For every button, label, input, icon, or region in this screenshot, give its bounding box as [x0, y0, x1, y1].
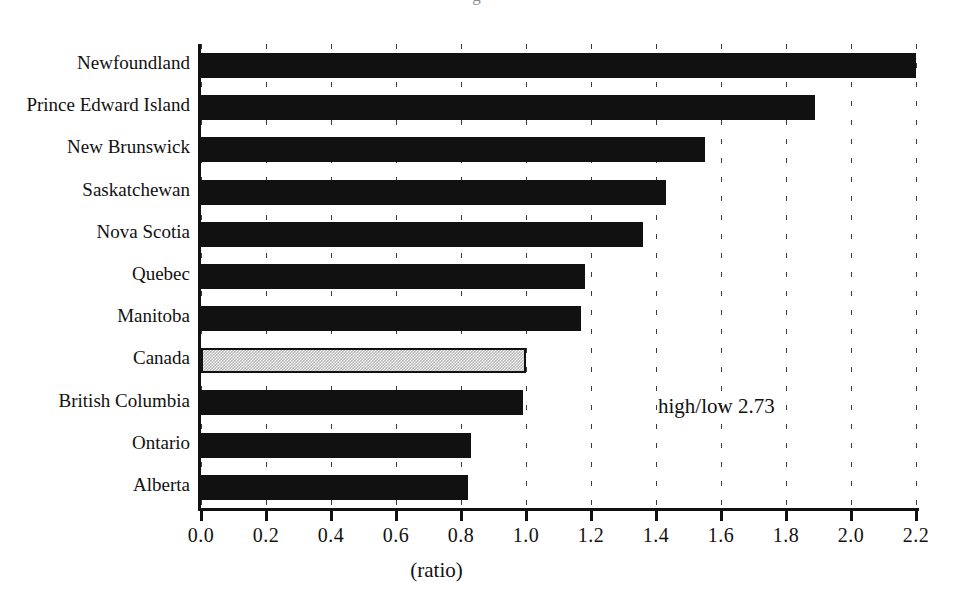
x-tick-label: 2.0 — [816, 524, 886, 547]
bar-row — [201, 339, 916, 381]
bar-alberta — [201, 475, 468, 500]
bar-canada — [201, 348, 526, 373]
category-label-alberta: Alberta — [0, 474, 190, 496]
x-tick-label: 0.8 — [426, 524, 496, 547]
category-label-canada: Canada — [0, 347, 190, 369]
x-tick-mark — [395, 511, 398, 521]
x-tick-mark — [915, 511, 918, 521]
bar-manitoba — [201, 306, 581, 331]
bar-row — [201, 466, 916, 508]
x-tick-mark — [330, 511, 333, 521]
bar-ontario — [201, 433, 471, 458]
bar-row — [201, 255, 916, 297]
bar-british-columbia — [201, 390, 523, 415]
x-tick-mark — [850, 511, 853, 521]
high-low-annotation: high/low 2.73 — [658, 394, 775, 419]
x-tick-label: 0.0 — [166, 524, 236, 547]
x-tick-mark — [460, 511, 463, 521]
category-label-manitoba: Manitoba — [0, 305, 190, 327]
bar-nova-scotia — [201, 222, 643, 247]
x-tick-label: 2.2 — [881, 524, 951, 547]
cutoff-title: g — [0, 0, 953, 8]
bar-row — [201, 171, 916, 213]
x-tick-mark — [200, 511, 203, 521]
x-tick-mark — [525, 511, 528, 521]
x-tick-mark — [720, 511, 723, 521]
x-tick-label: 0.2 — [231, 524, 301, 547]
bar-row — [201, 424, 916, 466]
category-label-saskatchewan: Saskatchewan — [0, 179, 190, 201]
x-axis-title: (ratio) — [0, 558, 953, 583]
category-label-nova-scotia: Nova Scotia — [0, 221, 190, 243]
category-label-newfoundland: Newfoundland — [0, 52, 190, 74]
bar-row — [201, 381, 916, 423]
bar-row — [201, 213, 916, 255]
x-tick-label: 1.2 — [556, 524, 626, 547]
x-tick-mark — [655, 511, 658, 521]
bar-quebec — [201, 264, 585, 289]
plot-area: 0.00.20.40.60.81.01.21.41.61.82.02.2 — [201, 44, 916, 508]
x-tick-mark — [265, 511, 268, 521]
bar-row — [201, 128, 916, 170]
x-tick-mark — [785, 511, 788, 521]
bar-newfoundland — [201, 53, 916, 78]
bar-prince-edward-island — [201, 95, 815, 120]
gridline — [916, 44, 917, 508]
x-tick-label: 0.6 — [361, 524, 431, 547]
bar-new-brunswick — [201, 137, 705, 162]
chart-page: g NewfoundlandPrince Edward IslandNew Br… — [0, 0, 953, 614]
category-label-ontario: Ontario — [0, 432, 190, 454]
x-tick-label: 1.8 — [751, 524, 821, 547]
x-axis-line — [198, 508, 919, 511]
category-label-prince-edward-island: Prince Edward Island — [0, 94, 190, 116]
category-label-quebec: Quebec — [0, 263, 190, 285]
bar-row — [201, 86, 916, 128]
x-tick-label: 1.0 — [491, 524, 561, 547]
category-label-british-columbia: British Columbia — [0, 390, 190, 412]
bar-row — [201, 44, 916, 86]
x-tick-label: 0.4 — [296, 524, 366, 547]
x-tick-mark — [590, 511, 593, 521]
x-axis-title-text: (ratio) — [410, 558, 462, 583]
bar-saskatchewan — [201, 180, 666, 205]
x-tick-label: 1.6 — [686, 524, 756, 547]
bar-row — [201, 297, 916, 339]
category-axis-labels: NewfoundlandPrince Edward IslandNew Brun… — [0, 44, 190, 508]
category-label-new-brunswick: New Brunswick — [0, 136, 190, 158]
x-tick-label: 1.4 — [621, 524, 691, 547]
